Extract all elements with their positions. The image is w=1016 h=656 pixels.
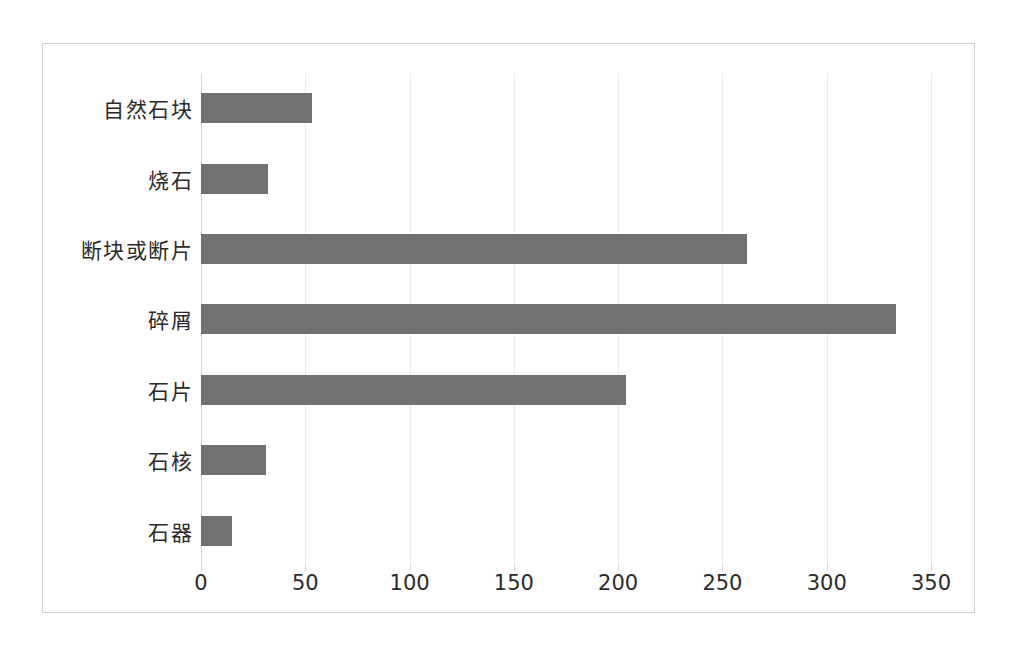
bar-row: [201, 425, 931, 495]
bar: [201, 164, 268, 194]
tick-label: 200: [598, 571, 638, 595]
tick-label: 50: [292, 571, 319, 595]
chart-frame: 自然石块烧石断块或断片碎屑石片石核石器 05010015020025030035…: [42, 43, 975, 613]
category-label: 石核: [148, 445, 193, 475]
bar-row: [201, 496, 931, 566]
category-label-row: 烧石: [43, 143, 193, 213]
bar-row: [201, 73, 931, 143]
category-label-row: 自然石块: [43, 73, 193, 143]
bar-row: [201, 143, 931, 213]
category-label-row: 石器: [43, 496, 193, 566]
bar: [201, 516, 232, 546]
bar: [201, 93, 312, 123]
category-label: 碎屑: [148, 304, 193, 334]
category-label: 断块或断片: [81, 234, 194, 264]
bar: [201, 234, 747, 264]
tick-label: 350: [911, 571, 951, 595]
category-label-row: 石片: [43, 355, 193, 425]
bar-row: [201, 284, 931, 354]
tick-label: 250: [702, 571, 742, 595]
category-label: 烧石: [148, 164, 193, 194]
plot-area: [201, 73, 931, 566]
category-label: 石器: [148, 516, 193, 546]
tick-label: 300: [807, 571, 847, 595]
bar-row: [201, 355, 931, 425]
tick-label: 150: [494, 571, 534, 595]
category-axis-labels: 自然石块烧石断块或断片碎屑石片石核石器: [43, 73, 193, 566]
tick-label: 100: [390, 571, 430, 595]
category-label-row: 断块或断片: [43, 214, 193, 284]
bar: [201, 375, 626, 405]
category-label: 自然石块: [103, 93, 193, 123]
bar: [201, 304, 896, 334]
bar-row: [201, 214, 931, 284]
bar: [201, 445, 266, 475]
category-label-row: 碎屑: [43, 284, 193, 354]
gridline: [931, 73, 932, 566]
category-label-row: 石核: [43, 425, 193, 495]
category-label: 石片: [148, 375, 193, 405]
value-axis-labels: 050100150200250300350: [201, 571, 931, 605]
tick-label: 0: [194, 571, 207, 595]
